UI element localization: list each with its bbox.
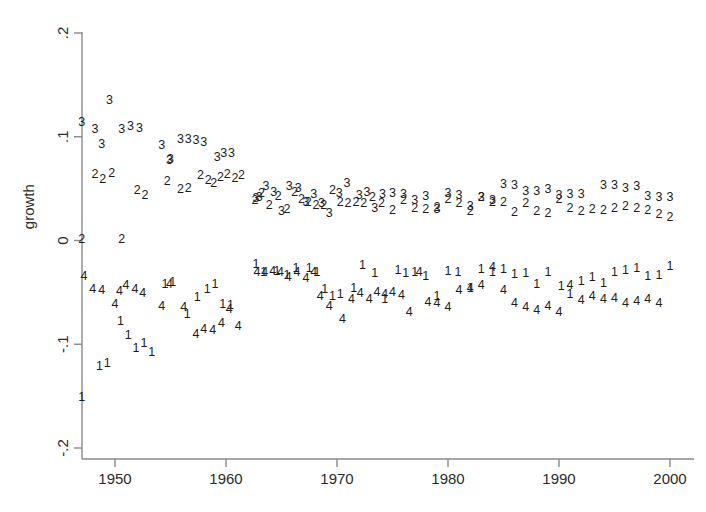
data-point-marker-4: 4 [478,278,485,292]
data-point-marker-4: 4 [326,299,333,313]
data-point-marker-3: 3 [422,189,429,203]
data-point-marker-3: 3 [177,132,184,146]
data-point-marker-3: 3 [193,133,200,147]
x-tick-label: 2000 [653,470,686,487]
data-point-marker-1: 1 [395,263,402,277]
data-point-marker-2: 2 [266,198,273,212]
data-point-marker-3: 3 [92,122,99,136]
data-point-marker-2: 2 [600,203,607,217]
data-point-marker-4: 4 [89,282,96,296]
data-point-marker-3: 3 [106,93,113,107]
data-point-marker-4: 4 [200,322,207,336]
data-point-marker-4: 4 [269,264,276,278]
data-point-marker-2: 2 [92,167,99,181]
data-point-marker-2: 2 [99,172,106,186]
data-point-marker-2: 2 [141,188,148,202]
data-point-marker-3: 3 [98,137,105,151]
data-point-marker-2: 2 [611,201,618,215]
data-point-marker-2: 2 [238,168,245,182]
data-point-marker-3: 3 [278,204,285,218]
data-point-marker-3: 3 [185,132,192,146]
data-point-marker-4: 4 [556,305,563,319]
data-point-marker-4: 4 [366,292,373,306]
data-point-marker-2: 2 [644,203,651,217]
data-point-marker-3: 3 [344,176,351,190]
data-point-marker-3: 3 [295,181,302,195]
data-point-marker-1: 1 [611,265,618,279]
y-tick-label: 0 [54,236,71,244]
data-point-marker-3: 3 [578,187,585,201]
data-point-marker-1: 1 [500,262,507,276]
data-point-marker-3: 3 [363,185,370,199]
data-point-marker-4: 4 [218,316,225,330]
data-point-marker-4: 4 [467,281,474,295]
data-point-marker-1: 1 [622,263,629,277]
data-point-marker-3: 3 [456,188,463,202]
x-tick-label: 1970 [320,470,353,487]
data-point-marker-4: 4 [544,299,551,313]
data-point-marker-2: 2 [197,168,204,182]
y-tick-label: -.1 [54,335,71,353]
data-point-marker-3: 3 [567,187,574,201]
data-point-marker-3: 3 [522,184,529,198]
data-point-marker-2: 2 [78,232,85,246]
data-point-marker-1: 1 [402,266,409,280]
data-point-marker-3: 3 [411,193,418,207]
data-point-marker-4: 4 [235,319,242,333]
data-point-marker-3: 3 [544,182,551,196]
data-point-marker-1: 1 [600,276,607,290]
data-point-marker-1: 1 [455,265,462,279]
data-point-marker-4: 4 [261,265,268,279]
x-tick-label: 1980 [431,470,464,487]
x-tick-label: 1950 [98,470,131,487]
data-point-marker-3: 3 [270,185,277,199]
data-point-marker-1: 1 [633,261,640,275]
data-point-marker-3: 3 [389,186,396,200]
data-point-marker-4: 4 [373,285,380,299]
data-point-marker-3: 3 [511,178,518,192]
data-point-marker-4: 4 [416,265,423,279]
data-point-marker-3: 3 [167,152,174,166]
data-point-marker-3: 3 [326,206,333,220]
data-point-marker-1: 1 [337,287,344,301]
y-tick-label: -.2 [54,439,71,457]
data-point-marker-4: 4 [381,287,388,301]
data-point-marker-2: 2 [500,195,507,209]
y-axis-title: growth [20,184,37,229]
data-point-marker-4: 4 [80,269,87,283]
data-point-marker-2: 2 [589,202,596,216]
data-point-marker-2: 2 [422,202,429,216]
data-point-marker-3: 3 [622,181,629,195]
data-point-marker-2: 2 [544,206,551,220]
data-point-marker-4: 4 [622,296,629,310]
data-point-marker-4: 4 [294,265,301,279]
data-point-marker-4: 4 [611,291,618,305]
y-tick-label: .1 [54,130,71,143]
data-point-marker-3: 3 [136,121,143,135]
data-point-marker-2: 2 [345,196,352,210]
data-point-marker-3: 3 [379,187,386,201]
data-point-marker-4: 4 [567,278,574,292]
data-point-marker-3: 3 [611,178,618,192]
data-point-marker-2: 2 [578,204,585,218]
data-point-marker-2: 2 [511,205,518,219]
data-point-marker-4: 4 [277,265,284,279]
data-point-marker-4: 4 [456,283,463,297]
data-point-marker-4: 4 [193,327,200,341]
data-point-marker-1: 1 [655,268,662,282]
data-point-marker-2: 2 [177,182,184,196]
data-point-marker-4: 4 [357,286,364,300]
data-point-marker-4: 4 [339,312,346,326]
data-point-marker-1: 1 [533,277,540,291]
data-point-marker-3: 3 [644,189,651,203]
data-point-marker-3: 3 [356,188,363,202]
data-point-marker-2: 2 [164,174,171,188]
data-point-marker-4: 4 [112,297,119,311]
data-point-marker-2: 2 [134,183,141,197]
data-point-marker-2: 2 [185,181,192,195]
data-point-marker-1: 1 [371,266,378,280]
data-point-marker-3: 3 [478,190,485,204]
data-point-marker-4: 4 [285,270,292,284]
data-point-marker-1: 1 [558,279,565,293]
data-point-marker-4: 4 [578,293,585,307]
